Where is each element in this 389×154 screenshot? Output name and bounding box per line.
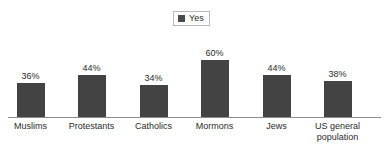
x-tick-label-line: US general (307, 121, 368, 132)
bar-mormons[interactable] (201, 60, 229, 117)
bar-value-label: 38% (328, 69, 346, 79)
x-tick-label-line: Muslims (0, 121, 61, 132)
bar-chart: 36% 44% 34% 60% 44% 38% Muslims (0, 0, 389, 154)
bar-group-muslims: 36% (0, 32, 61, 117)
bar-protestants[interactable] (78, 75, 106, 117)
bar-catholics[interactable] (140, 85, 168, 117)
bar-value-label: 44% (267, 63, 285, 73)
x-tick-label-catholics: Catholics (123, 121, 184, 132)
x-tick-label-mormons: Mormons (184, 121, 245, 132)
bar-muslims[interactable] (17, 83, 45, 117)
bar-group-jews: 44% (246, 32, 307, 117)
bar-value-label: 34% (144, 73, 162, 83)
bar-group-protestants: 44% (61, 32, 122, 117)
bar-group-us-general-population: 38% (307, 32, 368, 117)
legend-swatch-icon (178, 15, 185, 22)
bar-value-label: 44% (82, 63, 100, 73)
bar-jews[interactable] (263, 75, 291, 117)
legend-label-yes: Yes (189, 14, 204, 23)
x-tick-label-muslims: Muslims (0, 121, 61, 132)
bar-value-label: 60% (205, 48, 223, 58)
x-tick-label-line: population (307, 132, 368, 143)
x-tick-label-line: Catholics (123, 121, 184, 132)
bar-group-catholics: 34% (123, 32, 184, 117)
x-tick-label-protestants: Protestants (61, 121, 122, 132)
bar-value-label: 36% (21, 71, 39, 81)
x-tick-label-us-general-population: US general population (307, 121, 368, 143)
bar-group-mormons: 60% (184, 32, 245, 117)
bar-us-general-population[interactable] (324, 81, 352, 117)
legend: Yes (173, 11, 210, 26)
x-tick-label-line: Jews (246, 121, 307, 132)
x-tick-label-line: Protestants (61, 121, 122, 132)
x-tick-label-line: Mormons (184, 121, 245, 132)
x-axis-line (8, 117, 381, 118)
x-tick-label-jews: Jews (246, 121, 307, 132)
